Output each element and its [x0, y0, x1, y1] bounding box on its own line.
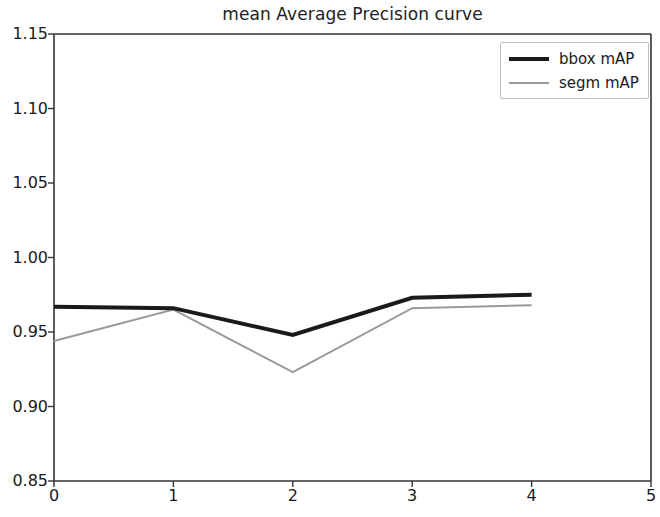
legend-label-bbox: bbox mAP [559, 50, 634, 68]
x-tick-label: 0 [34, 486, 74, 505]
y-axis-ticks [48, 34, 54, 481]
legend-item-bbox-map: bbox mAP [509, 47, 634, 71]
x-tick-label: 1 [153, 486, 193, 505]
legend-label-segm: segm mAP [559, 74, 639, 92]
y-tick-label: 1.10 [2, 99, 48, 118]
y-tick-label: 1.15 [2, 24, 48, 43]
y-tick-label: 1.00 [2, 248, 48, 267]
y-tick-label: 0.95 [2, 322, 48, 341]
y-tick-label: 0.90 [2, 397, 48, 416]
x-tick-label: 2 [273, 486, 313, 505]
legend-line-swatch-segm [509, 82, 549, 84]
data-series-lines [54, 295, 532, 372]
axes-spines [54, 34, 651, 481]
x-tick-label: 3 [392, 486, 432, 505]
x-axis-ticks [54, 481, 651, 487]
legend-line-swatch-bbox [509, 57, 549, 61]
series-line-segm-map [54, 305, 532, 372]
series-line-bbox-map [54, 295, 532, 335]
y-tick-label: 1.05 [2, 173, 48, 192]
x-tick-label: 5 [631, 486, 660, 505]
legend-item-segm-map: segm mAP [509, 71, 639, 95]
chart-legend: bbox mAP segm mAP [500, 42, 649, 99]
x-tick-label: 4 [512, 486, 552, 505]
